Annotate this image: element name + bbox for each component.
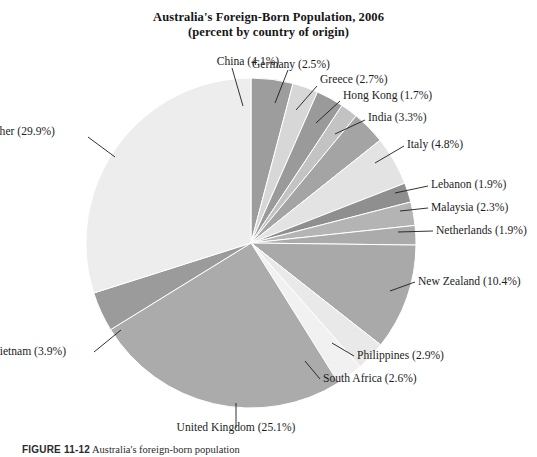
slice-label-south-africa: South Africa (2.6%) <box>323 372 417 385</box>
slice-label-netherlands: Netherlands (1.9%) <box>436 224 527 237</box>
slice-label-italy: Italy (4.8%) <box>407 138 463 151</box>
figure-container: Australia's Foreign-Born Population, 200… <box>0 0 537 457</box>
slice-label-philippines: Philippines (2.9%) <box>357 349 444 362</box>
leader-line-other <box>88 137 115 157</box>
slice-label-vietnam: Vietnam (3.9%) <box>0 345 92 358</box>
slice-label-new-zealand: New Zealand (10.4%) <box>418 275 521 288</box>
leader-line-vietnam <box>94 330 121 352</box>
slice-label-other: Other (29.9%) <box>0 125 86 138</box>
slice-label-germany: Germany (2.5%) <box>252 58 330 71</box>
slice-label-united-kingdom: United Kingdom (25.1%) <box>163 421 309 434</box>
slice-label-greece: Greece (2.7%) <box>320 73 388 86</box>
figure-caption-number: FIGURE 11-12 <box>22 444 90 455</box>
slice-label-malaysia: Malaysia (2.3%) <box>431 201 508 214</box>
figure-caption: FIGURE 11-12 Australia's foreign-born po… <box>22 444 522 456</box>
figure-caption-text: Australia's foreign-born population <box>92 444 240 455</box>
slice-label-india: India (3.3%) <box>368 111 427 124</box>
slice-label-hong-kong: Hong Kong (1.7%) <box>343 89 432 102</box>
slice-label-lebanon: Lebanon (1.9%) <box>431 178 506 191</box>
